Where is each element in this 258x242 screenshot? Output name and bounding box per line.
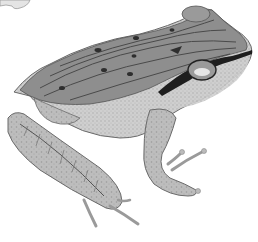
- frog-illustration: [0, 0, 258, 242]
- frog-drawing: [0, 0, 258, 242]
- front-leg: [144, 109, 207, 196]
- corner-fragment: [0, 0, 30, 9]
